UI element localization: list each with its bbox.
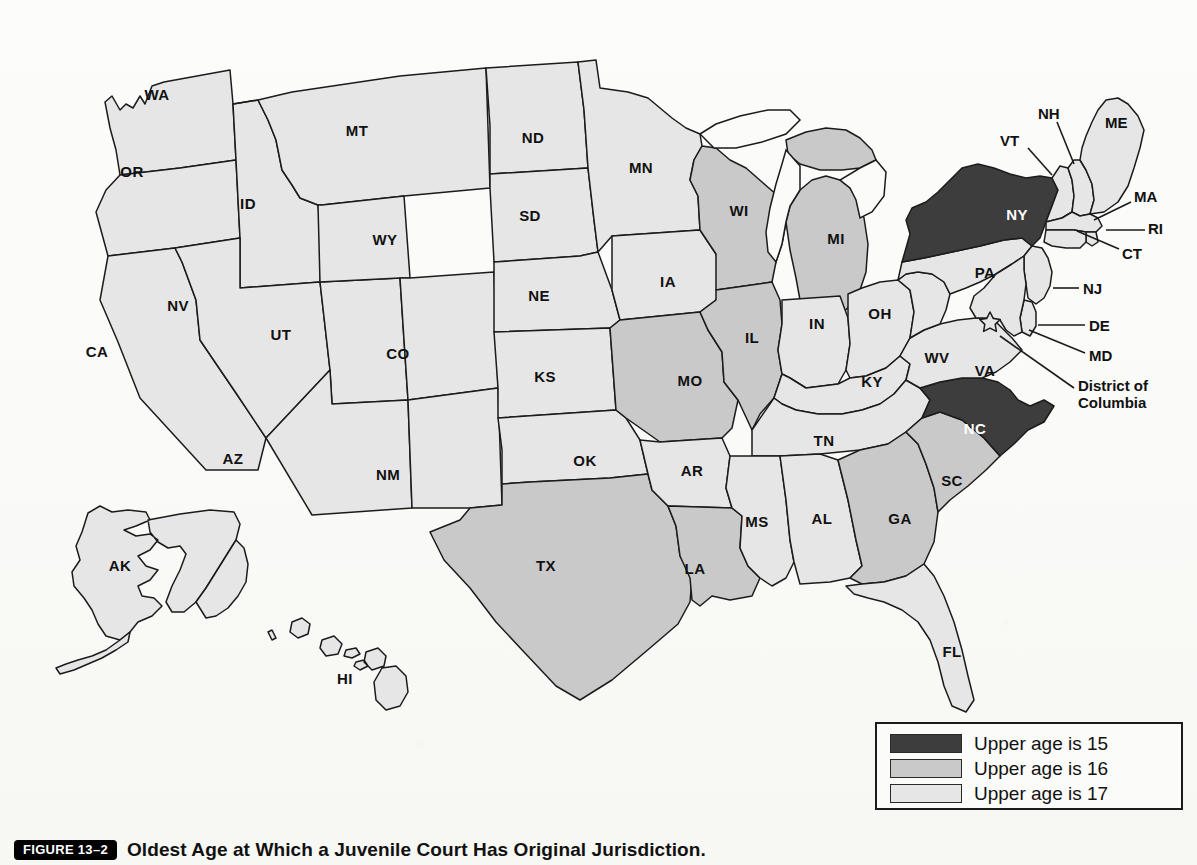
legend-swatch-age-17 xyxy=(890,784,962,803)
state-NE[interactable] xyxy=(494,252,620,332)
state-NJ[interactable] xyxy=(1024,246,1052,304)
state-label-NY: NY xyxy=(1006,206,1028,223)
state-label-AL: AL xyxy=(812,510,833,527)
state-MN[interactable] xyxy=(578,60,702,252)
state-SD[interactable] xyxy=(490,168,598,262)
state-RI[interactable] xyxy=(1086,232,1098,246)
state-label-UT: UT xyxy=(271,326,292,343)
legend-item-age-16: Upper age is 16 xyxy=(890,756,1181,780)
legend-label-age-15: Upper age is 15 xyxy=(974,734,1108,753)
state-TX[interactable] xyxy=(430,474,692,700)
state-label-CO: CO xyxy=(386,345,409,362)
callout-label-ME: ME xyxy=(1105,114,1128,131)
state-label-LA: LA xyxy=(685,560,706,577)
state-label-FL: FL xyxy=(942,643,961,660)
state-label-TN: TN xyxy=(814,432,835,449)
state-label-TX: TX xyxy=(536,557,556,574)
state-label-WI: WI xyxy=(729,202,748,219)
state-label-IN: IN xyxy=(809,315,825,332)
state-label-WA: WA xyxy=(145,86,170,103)
callout-label-MA: MA xyxy=(1134,188,1157,205)
state-label-AR: AR xyxy=(681,462,703,479)
state-IN[interactable] xyxy=(778,296,850,388)
callout-label-NH: NH xyxy=(1038,105,1060,122)
state-label-MI: MI xyxy=(827,230,844,247)
state-label-WV: WV xyxy=(925,349,950,366)
figure-caption: FIGURE 13–2 Oldest Age at Which a Juveni… xyxy=(14,838,706,862)
state-label-SD: SD xyxy=(519,207,541,224)
state-label-AZ: AZ xyxy=(223,450,244,467)
state-OK[interactable] xyxy=(498,410,648,484)
state-label-SC: SC xyxy=(941,472,963,489)
state-FL[interactable] xyxy=(846,564,974,712)
state-label-NM: NM xyxy=(376,466,400,483)
state-label-IL: IL xyxy=(745,329,759,346)
state-label-MO: MO xyxy=(678,372,703,389)
state-UT[interactable] xyxy=(320,278,408,404)
legend-swatch-age-15 xyxy=(890,734,962,753)
state-label-WY: WY xyxy=(373,231,398,248)
state-CT[interactable] xyxy=(1044,230,1086,248)
state-NM[interactable] xyxy=(408,388,502,508)
state-HI[interactable] xyxy=(268,618,408,710)
state-label-MT: MT xyxy=(346,122,368,139)
state-label-MN: MN xyxy=(629,159,653,176)
state-label-OK: OK xyxy=(573,452,596,469)
callout-label-CT: CT xyxy=(1122,245,1142,262)
callout-label-VT: VT xyxy=(1000,132,1019,149)
state-label-CA: CA xyxy=(86,343,108,360)
state-label-GA: GA xyxy=(888,510,911,527)
legend-swatch-age-16 xyxy=(890,759,962,778)
state-CO[interactable] xyxy=(400,272,498,400)
callout-label-DC: District ofColumbia xyxy=(1078,378,1148,412)
legend-item-age-15: Upper age is 15 xyxy=(890,731,1181,755)
state-label-KY: KY xyxy=(861,373,883,390)
figure-caption-text: Oldest Age at Which a Juvenile Court Has… xyxy=(127,839,706,861)
callout-label-DE: DE xyxy=(1089,317,1110,334)
state-label-PA: PA xyxy=(975,264,996,281)
callout-label-MD: MD xyxy=(1089,347,1112,364)
figure-container: WAORCAIDNVUTAZMTWYCONMNDSDNEKSOKTXMNIAMO… xyxy=(0,0,1197,865)
legend-label-age-17: Upper age is 17 xyxy=(974,784,1108,803)
legend-label-age-16: Upper age is 16 xyxy=(974,759,1108,778)
state-label-KS: KS xyxy=(534,368,556,385)
state-ND[interactable] xyxy=(486,62,588,174)
state-label-VA: VA xyxy=(975,362,996,379)
lake-superior xyxy=(700,110,800,148)
legend-item-age-17: Upper age is 17 xyxy=(890,781,1181,805)
state-label-ID: ID xyxy=(240,195,256,212)
state-label-NV: NV xyxy=(167,297,189,314)
state-label-ND: ND xyxy=(522,129,544,146)
state-label-NC: NC xyxy=(964,420,986,437)
map-legend: Upper age is 15Upper age is 16Upper age … xyxy=(875,722,1183,810)
state-label-NE: NE xyxy=(528,287,550,304)
callout-label-RI: RI xyxy=(1148,220,1163,237)
state-label-MS: MS xyxy=(745,513,768,530)
state-label-AK: AK xyxy=(109,557,131,574)
state-label-OR: OR xyxy=(120,163,143,180)
callout-label-NJ: NJ xyxy=(1083,280,1102,297)
state-label-HI: HI xyxy=(337,670,353,687)
state-label-OH: OH xyxy=(868,305,891,322)
state-WA[interactable] xyxy=(105,70,236,175)
state-label-IA: IA xyxy=(660,273,676,290)
figure-number-badge: FIGURE 13–2 xyxy=(14,840,117,860)
